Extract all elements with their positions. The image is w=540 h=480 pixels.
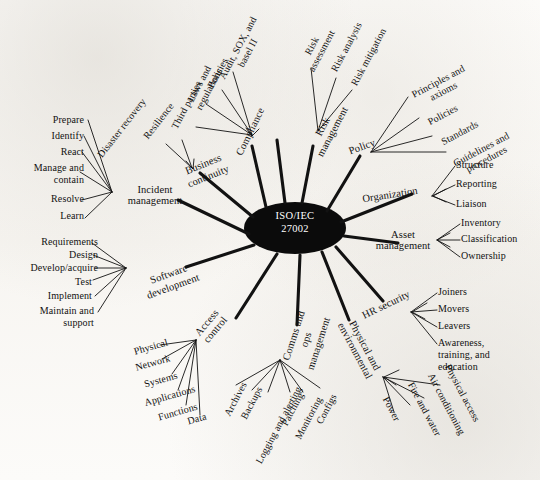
edge-asset-leaf-2 xyxy=(437,240,460,257)
leaf-label-org-liaison[interactable]: Liaison xyxy=(456,199,526,210)
center-line-1: ISO/IEC xyxy=(276,210,315,221)
spoke-hr-security xyxy=(336,247,383,301)
mindmap-canvas: ISO/IEC27002 Compliance Audit, SOX, and … xyxy=(0,0,540,480)
arrowhead-organization xyxy=(433,189,446,202)
leaf-label-inc-react[interactable]: React xyxy=(22,147,84,158)
edge-asset-leaf-0 xyxy=(437,224,460,240)
leaf-label-inc-manage-contain[interactable]: Manage and contain xyxy=(10,162,84,186)
branch-label-asset-management[interactable]: Asset management xyxy=(366,229,440,251)
leaf-label-asset-inventory[interactable]: Inventory xyxy=(461,218,537,229)
edge-hr-leaf-3 xyxy=(411,312,437,344)
spoke-access-control xyxy=(236,254,277,318)
leaf-label-sw-test[interactable]: Test xyxy=(20,277,92,288)
spoke-compliance-b xyxy=(277,140,285,203)
leaf-label-asset-ownership[interactable]: Ownership xyxy=(461,251,539,262)
leaf-label-sw-design[interactable]: Design xyxy=(20,250,98,261)
leaf-label-inc-identify[interactable]: Identify xyxy=(22,131,84,142)
leaf-label-hr-leavers[interactable]: Leavers xyxy=(438,321,500,332)
center-line-2: 27002 xyxy=(281,223,309,234)
leaf-label-sw-requirements[interactable]: Requirements xyxy=(20,237,98,248)
leaf-label-inc-resolve[interactable]: Resolve xyxy=(22,194,84,205)
leaf-label-org-structure[interactable]: Structure xyxy=(456,160,526,171)
edge-hr-leaf-2 xyxy=(411,312,437,327)
leaf-label-org-reporting[interactable]: Reporting xyxy=(456,179,526,190)
leaf-label-sw-implement[interactable]: Implement xyxy=(20,291,92,302)
leaf-label-hr-joiners[interactable]: Joiners xyxy=(438,287,500,298)
leaf-label-inc-prepare[interactable]: Prepare xyxy=(22,115,84,126)
leaf-label-sw-maintain[interactable]: Maintain and support xyxy=(14,305,94,329)
spoke-compliance xyxy=(252,146,266,207)
leaf-label-sw-develop-acquire[interactable]: Develop/acquire xyxy=(10,263,98,274)
leaf-label-hr-movers[interactable]: Movers xyxy=(438,304,500,315)
leaf-label-inc-learn[interactable]: Learn xyxy=(22,211,84,222)
center-node-label: ISO/IEC27002 xyxy=(245,209,345,236)
leaf-label-asset-classification[interactable]: Classification xyxy=(461,234,540,245)
